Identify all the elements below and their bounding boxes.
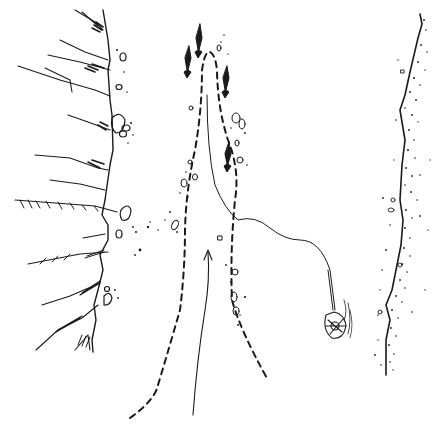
cliff-face [15, 10, 117, 352]
shoreline-stipple [374, 19, 431, 371]
illustration [0, 0, 437, 429]
cliff-pebbles [114, 49, 149, 299]
hanging-net [325, 300, 352, 338]
illustration-canvas [0, 0, 437, 429]
route-pebbles [149, 34, 248, 326]
route-boulders [170, 45, 245, 315]
dashed-route [130, 52, 268, 418]
rope-line [207, 95, 335, 310]
stippled-shoreline [386, 14, 422, 375]
upward-route-arrow [193, 250, 212, 415]
